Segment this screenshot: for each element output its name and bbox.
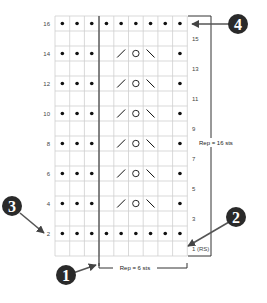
purl-dot-icon bbox=[61, 232, 65, 236]
k2tog-slash-icon bbox=[117, 50, 125, 58]
row-label-8: 8 bbox=[47, 141, 51, 147]
purl-dot-icon bbox=[178, 22, 182, 26]
callout-2: 2 bbox=[226, 207, 246, 227]
ssk-backslash-icon bbox=[147, 170, 155, 178]
row-label-3: 3 bbox=[192, 216, 196, 222]
ssk-backslash-icon bbox=[147, 140, 155, 148]
row-label-7: 7 bbox=[192, 156, 196, 162]
row-label-9: 9 bbox=[192, 126, 196, 132]
k2tog-slash-icon bbox=[117, 140, 125, 148]
callout-2-number: 2 bbox=[232, 209, 240, 226]
purl-dot-icon bbox=[119, 232, 123, 236]
purl-dot-icon bbox=[178, 202, 182, 206]
row-label-16: 16 bbox=[43, 21, 50, 27]
callout-3-number: 3 bbox=[8, 198, 16, 215]
chart-grid bbox=[55, 16, 187, 256]
stitch-symbols bbox=[61, 22, 182, 236]
purl-dot-icon bbox=[61, 112, 65, 116]
arrow-1 bbox=[73, 265, 96, 273]
yarn-over-circle-icon bbox=[133, 80, 139, 86]
purl-dot-icon bbox=[178, 82, 182, 86]
yarn-over-circle-icon bbox=[133, 50, 139, 56]
k2tog-slash-icon bbox=[117, 200, 125, 208]
arrow-3 bbox=[20, 213, 44, 233]
purl-dot-icon bbox=[75, 112, 79, 116]
purl-dot-icon bbox=[61, 82, 65, 86]
purl-dot-icon bbox=[178, 52, 182, 56]
purl-dot-icon bbox=[75, 82, 79, 86]
row-label-10: 10 bbox=[43, 111, 50, 117]
row-label-11: 11 bbox=[192, 96, 199, 102]
purl-dot-icon bbox=[134, 232, 138, 236]
row-repeat-label: Rep = 16 sts bbox=[199, 140, 233, 146]
purl-dot-icon bbox=[75, 232, 79, 236]
purl-dot-icon bbox=[90, 172, 94, 176]
row-label-12: 12 bbox=[43, 81, 50, 87]
purl-dot-icon bbox=[90, 82, 94, 86]
row-label-15: 15 bbox=[192, 36, 199, 42]
stitch-repeat-label: Rep = 6 sts bbox=[120, 265, 151, 271]
purl-dot-icon bbox=[61, 142, 65, 146]
row-label-2: 2 bbox=[47, 231, 51, 237]
row-label-4: 4 bbox=[47, 201, 51, 207]
yarn-over-circle-icon bbox=[133, 140, 139, 146]
callout-1-number: 1 bbox=[62, 267, 70, 284]
purl-dot-icon bbox=[119, 22, 123, 26]
k2tog-slash-icon bbox=[117, 110, 125, 118]
purl-dot-icon bbox=[149, 22, 153, 26]
purl-dot-icon bbox=[134, 22, 138, 26]
ssk-backslash-icon bbox=[147, 50, 155, 58]
knitting-chart: 16 14 12 10 8 6 4 2 15 13 11 9 7 5 3 1 (… bbox=[0, 0, 267, 303]
purl-dot-icon bbox=[61, 202, 65, 206]
purl-dot-icon bbox=[90, 52, 94, 56]
callout-4: 4 bbox=[228, 14, 248, 34]
ssk-backslash-icon bbox=[147, 200, 155, 208]
row-label-6: 6 bbox=[47, 171, 51, 177]
yarn-over-circle-icon bbox=[133, 170, 139, 176]
row-label-14: 14 bbox=[43, 51, 50, 57]
purl-dot-icon bbox=[178, 112, 182, 116]
purl-dot-icon bbox=[149, 232, 153, 236]
ssk-backslash-icon bbox=[147, 80, 155, 88]
left-row-labels: 16 14 12 10 8 6 4 2 bbox=[43, 21, 50, 237]
purl-dot-icon bbox=[105, 232, 109, 236]
purl-dot-icon bbox=[75, 52, 79, 56]
row-label-5: 5 bbox=[192, 186, 196, 192]
purl-dot-icon bbox=[75, 142, 79, 146]
k2tog-slash-icon bbox=[117, 170, 125, 178]
purl-dot-icon bbox=[163, 232, 167, 236]
callout-1: 1 bbox=[56, 265, 76, 285]
purl-dot-icon bbox=[178, 172, 182, 176]
purl-dot-icon bbox=[90, 202, 94, 206]
ssk-backslash-icon bbox=[147, 110, 155, 118]
purl-dot-icon bbox=[90, 232, 94, 236]
purl-dot-icon bbox=[75, 172, 79, 176]
purl-dot-icon bbox=[90, 22, 94, 26]
purl-dot-icon bbox=[61, 52, 65, 56]
yarn-over-circle-icon bbox=[133, 110, 139, 116]
callout-4-number: 4 bbox=[234, 16, 242, 33]
k2tog-slash-icon bbox=[117, 80, 125, 88]
purl-dot-icon bbox=[163, 22, 167, 26]
callout-3: 3 bbox=[2, 196, 22, 216]
purl-dot-icon bbox=[178, 232, 182, 236]
purl-dot-icon bbox=[90, 112, 94, 116]
purl-dot-icon bbox=[61, 172, 65, 176]
arrow-2 bbox=[188, 222, 229, 246]
purl-dot-icon bbox=[75, 22, 79, 26]
purl-dot-icon bbox=[90, 142, 94, 146]
yarn-over-circle-icon bbox=[133, 200, 139, 206]
purl-dot-icon bbox=[75, 202, 79, 206]
purl-dot-icon bbox=[61, 22, 65, 26]
row-label-1-rs: 1 (RS) bbox=[192, 246, 209, 252]
purl-dot-icon bbox=[178, 142, 182, 146]
row-label-13: 13 bbox=[192, 66, 199, 72]
purl-dot-icon bbox=[105, 22, 109, 26]
